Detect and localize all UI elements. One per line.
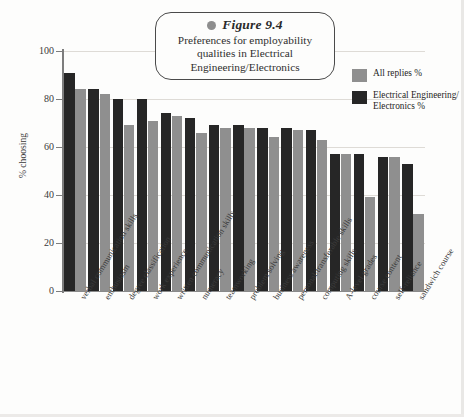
figure-panel: Figure 9.4 Preferences for employability… xyxy=(0,0,464,417)
chart-legend: All replies %Electrical Engineering/ Ele… xyxy=(352,68,460,120)
figure-number: Figure 9.4 xyxy=(222,17,283,33)
x-axis-label: sandwich course xyxy=(416,246,456,301)
legend-swatch-black xyxy=(352,91,367,104)
x-axis-label: numeracy xyxy=(199,267,226,302)
legend-swatch-gray xyxy=(352,69,367,82)
figure-caption-text: Preferences for employability qualities … xyxy=(164,34,326,74)
legend-item: All replies % xyxy=(352,68,460,82)
figure-caption-box: Figure 9.4 Preferences for employability… xyxy=(155,12,335,80)
legend-label: Electrical Engineering/ Electronics % xyxy=(373,90,460,112)
legend-label: All replies % xyxy=(373,68,422,79)
legend-item: Electrical Engineering/ Electronics % xyxy=(352,90,460,112)
bullet-dot-icon xyxy=(207,21,216,30)
figure-number-row: Figure 9.4 xyxy=(164,17,326,33)
